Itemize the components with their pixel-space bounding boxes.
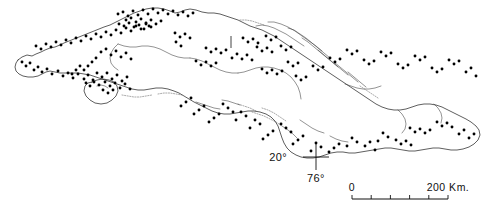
locality-dot [72,77,75,80]
locality-dot [180,45,183,48]
southern-cay-archipelago [122,93,297,138]
locality-dot [473,133,476,136]
locality-dot [41,71,44,74]
locality-dot [110,54,113,57]
locality-dot [205,47,208,50]
locality-dot [475,75,478,78]
locality-dot [140,28,143,31]
locality-dot [33,69,36,72]
locality-dot [290,131,293,134]
locality-dot [182,11,185,14]
locality-dot [121,80,124,83]
locality-dot [179,36,182,39]
graticule-cross [303,144,329,170]
locality-dot [451,126,454,129]
locality-dot [148,25,151,28]
locality-dot [115,50,118,53]
locality-dot [310,150,313,153]
locality-dot [267,134,270,137]
locality-dot [85,35,88,38]
locality-dot [215,48,218,51]
locality-dot [290,46,293,49]
locality-dot [254,119,257,122]
locality-dot [147,13,150,16]
locality-dot [270,39,273,42]
locality-dot [25,65,28,68]
locality-dot [70,42,73,45]
locality-dot [143,28,146,31]
locality-dot [225,49,228,52]
locality-dot [60,44,63,47]
locality-dot [105,31,108,34]
locality-dot [302,135,305,138]
locality-dot [190,97,193,100]
locality-dot [167,13,170,16]
locality-dot [231,57,234,60]
locality-dot [400,143,403,146]
locality-dot [257,42,260,45]
locality-dot [200,64,203,67]
locality-dot [116,74,119,77]
locality-dot [152,8,155,11]
locality-dot [175,41,178,44]
scale-bar-end-label: 200 Km. [427,181,470,193]
locality-dot [382,132,385,135]
locality-dot [192,12,195,15]
map-canvas: 20° 76° 0 200 Km. [0,0,500,210]
locality-dot [351,53,354,56]
locality-dot [112,89,115,92]
locality-dot [441,125,444,128]
locality-dot [124,83,127,86]
locality-dot [334,61,337,64]
locality-dot [414,55,417,58]
locality-dot [446,122,449,125]
locality-dot [374,149,377,152]
locality-dot [320,146,323,149]
locality-dot [338,143,341,146]
locality-dot [246,54,249,57]
locality-dot [162,9,165,12]
locality-dot [419,128,422,131]
locality-dot [122,11,125,14]
locality-dot [177,14,180,17]
locality-dot [29,62,32,65]
locality-dot [436,71,439,74]
locality-dot [125,19,128,22]
south-coast-detail [196,102,348,142]
locality-dot [287,61,290,64]
locality-dot [195,60,198,63]
locality-dot [62,75,65,78]
cuba-interior-lines [110,44,442,133]
locality-dot [75,37,78,40]
locality-dot [256,46,259,49]
locality-dot [275,36,278,39]
locality-dot [120,56,123,59]
locality-dot [142,9,145,12]
locality-dot [85,82,88,85]
locality-dot [160,20,163,23]
locality-dot [187,15,190,18]
locality-dot [35,45,38,48]
locality-dot [130,17,133,20]
locality-dot [280,123,283,126]
locality-dot [140,18,143,21]
locality-dot [436,121,439,124]
locality-dot [292,65,295,68]
locality-dot [180,105,183,108]
locality-dot [105,48,108,51]
locality-dot [276,73,279,76]
locality-dot [410,144,413,147]
locality-dot [75,69,78,72]
locality-dot [414,131,417,134]
locality-dot [46,68,49,71]
locality-dot [157,12,160,15]
locality-dot [429,129,432,132]
locality-dot [83,78,86,81]
locality-dot [87,74,90,77]
locality-dot [172,10,175,13]
locality-dot [281,70,284,73]
locality-dot [174,32,177,35]
locality-dot [356,141,359,144]
locality-dot [380,51,383,54]
locality-dot [137,14,140,17]
